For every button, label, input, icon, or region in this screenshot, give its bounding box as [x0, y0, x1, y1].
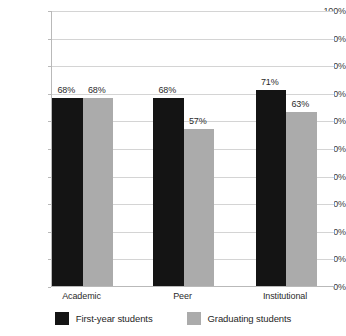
- category-label: Institutional: [235, 291, 335, 301]
- bar-value-label: 57%: [177, 117, 220, 126]
- legend-item-first-year-students[interactable]: First-year students: [55, 312, 153, 325]
- category-label: Academic: [32, 291, 132, 301]
- bar-chart: 100%90%80%70%60%50%40%30%20%10%0% 68%68%…: [0, 0, 346, 336]
- bar[interactable]: [83, 98, 114, 286]
- bar-value-label: 63%: [279, 100, 322, 109]
- chart-legend: First-year students Graduating students: [0, 312, 346, 325]
- legend-item-graduating-students[interactable]: Graduating students: [187, 312, 292, 325]
- bar-value-label: 68%: [146, 86, 189, 95]
- gridline: [52, 11, 334, 12]
- bar[interactable]: [153, 98, 184, 286]
- gridline: [52, 287, 334, 288]
- gridline: [52, 39, 334, 40]
- gridline: [52, 66, 334, 67]
- legend-swatch-icon-first-year-students: [55, 312, 69, 325]
- legend-label-first-year-students: First-year students: [76, 313, 153, 324]
- category-label: Peer: [133, 291, 233, 301]
- bar[interactable]: [184, 129, 215, 286]
- legend-swatch-icon-graduating-students: [187, 312, 201, 325]
- plot-area: [51, 11, 334, 287]
- y-tick-mark: [48, 287, 51, 288]
- bar[interactable]: [286, 112, 317, 286]
- bar[interactable]: [256, 90, 287, 286]
- bar[interactable]: [52, 98, 83, 286]
- bar-value-label: 68%: [76, 86, 119, 95]
- legend-label-graduating-students: Graduating students: [208, 313, 292, 324]
- bar-value-label: 71%: [249, 78, 292, 87]
